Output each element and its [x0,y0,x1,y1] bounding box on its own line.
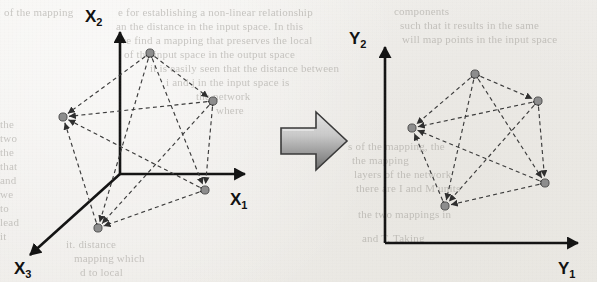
graph-edge [451,184,539,204]
graph-nodes-left [59,49,217,232]
graph-edges-left [65,57,213,226]
graph-edge [446,80,473,200]
axis-label-x2: X2 [85,7,102,28]
graph-node [59,113,67,121]
graph-node [541,179,549,187]
axis-label-x3: X3 [14,259,31,280]
graph-edge [206,107,213,184]
graph-edge [418,102,532,126]
graph-edge [100,59,149,222]
graph-edge [539,107,545,177]
graph-node [146,49,154,57]
graph-edge [449,105,534,201]
output-space-diagram: Y2 Y1 [349,29,578,280]
scanned-page: of the mappinge for establishing a non-l… [0,0,597,282]
graph-edge [68,57,145,114]
graph-node [209,97,217,105]
graph-edge [68,120,199,188]
graph-node [471,70,479,78]
axis-label-y1: Y1 [558,259,575,280]
graph-node [534,97,542,105]
graph-edge [152,59,203,185]
figure-canvas: X1 X2 X3 Y2 Y1 [0,0,597,282]
graph-edge [417,78,471,124]
graph-edge [478,79,542,178]
graph-edge [102,105,209,223]
graph-node [201,186,209,194]
graph-edges-right [414,76,544,204]
graph-edge [414,134,442,201]
graph-node [408,124,416,132]
graph-edge [104,192,200,226]
input-space-diagram: X1 X2 X3 [14,7,247,280]
graph-edge [65,123,96,223]
graph-edge [155,57,208,98]
graph-edge [69,102,207,117]
axis-label-x1: X1 [230,190,247,211]
graph-edge [418,130,540,180]
graph-nodes-right [408,70,549,210]
graph-node [441,202,449,210]
axis-x3 [30,174,120,255]
graph-edge [481,76,533,98]
mapping-arrow [281,112,347,170]
axis-label-y2: Y2 [349,29,366,50]
graph-node [94,224,102,232]
